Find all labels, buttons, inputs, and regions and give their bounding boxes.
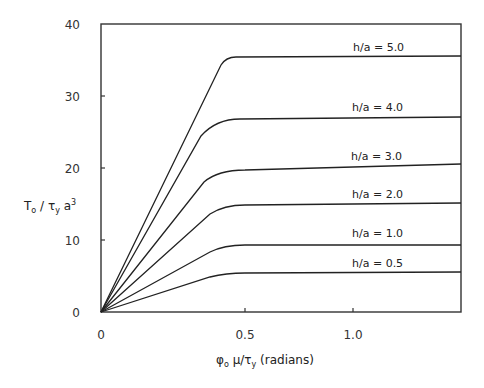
label-h-a-2-0: h/a = 2.0	[352, 188, 403, 201]
curve-h-a-1-0	[101, 245, 461, 312]
x-tick-0-5: 0.5	[235, 328, 254, 342]
label-h-a-5-0: h/a = 5.0	[353, 41, 404, 54]
y-tick-40: 40	[65, 18, 80, 32]
y-tick-10: 10	[65, 234, 80, 248]
x-tick-1-0: 1.0	[343, 328, 362, 342]
curve-h-a-2-0	[101, 203, 461, 312]
y-tick-20: 20	[65, 162, 80, 176]
y-tick-0: 0	[72, 306, 80, 320]
curve-h-a-0-5	[101, 272, 461, 312]
y-axis-label: To / τy a3	[23, 198, 76, 215]
chart-canvas: 40 30 20 10 0 0 0.5 1.0 To / τy a3 φo μ/…	[0, 0, 484, 388]
label-h-a-0-5: h/a = 0.5	[352, 257, 403, 270]
curve-h-a-3-0	[101, 164, 461, 312]
curve-h-a-5-0	[101, 56, 461, 312]
label-h-a-3-0: h/a = 3.0	[351, 150, 402, 163]
curves	[101, 56, 461, 312]
x-axis-label: φo μ/τy (radians)	[216, 353, 314, 369]
label-h-a-1-0: h/a = 1.0	[352, 227, 403, 240]
x-tick-0: 0	[97, 328, 105, 342]
label-h-a-4-0: h/a = 4.0	[352, 101, 403, 114]
plot-frame	[101, 24, 461, 312]
y-tick-30: 30	[65, 90, 80, 104]
